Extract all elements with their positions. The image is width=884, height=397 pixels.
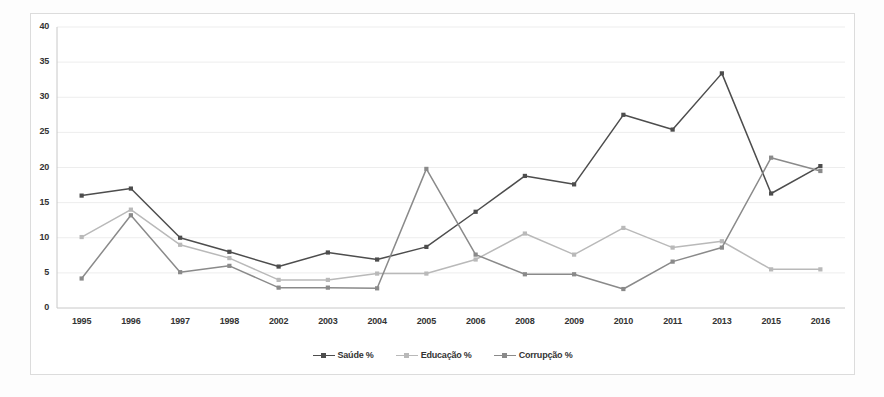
y-tick-label: 15 (27, 197, 49, 207)
y-tick-label: 40 (27, 21, 49, 31)
x-tick-label: 2011 (653, 316, 693, 326)
data-point-marker (129, 213, 133, 217)
x-tick-label: 2004 (357, 316, 397, 326)
x-tick-label: 1998 (209, 316, 249, 326)
y-tick-label: 10 (27, 232, 49, 242)
data-point-marker (474, 210, 478, 214)
line-chart-plot (0, 0, 884, 397)
data-point-marker (129, 186, 133, 190)
data-point-marker (277, 286, 281, 290)
x-tick-label: 1996 (111, 316, 151, 326)
data-point-marker (671, 127, 675, 131)
data-point-marker (523, 174, 527, 178)
data-point-marker (572, 272, 576, 276)
legend-label: Saúde % (338, 350, 374, 360)
legend-item-1[interactable]: Saúde % (313, 350, 374, 360)
data-point-marker (227, 264, 231, 268)
data-point-marker (80, 235, 84, 239)
gridlines (57, 27, 845, 273)
series-line (82, 158, 821, 289)
x-tick-label: 2006 (456, 316, 496, 326)
data-point-marker (474, 253, 478, 257)
y-tick-label: 20 (27, 162, 49, 172)
data-point-marker (178, 243, 182, 247)
legend-item-3[interactable]: Corrupção % (494, 350, 573, 360)
data-point-marker (424, 245, 428, 249)
data-point-marker (621, 287, 625, 291)
x-tick-label: 2015 (751, 316, 791, 326)
y-tick-label: 0 (27, 302, 49, 312)
x-tick-label: 2008 (505, 316, 545, 326)
data-point-marker (769, 156, 773, 160)
x-tick-label: 2013 (702, 316, 742, 326)
data-point-marker (720, 71, 724, 75)
legend-line-marker-icon (313, 351, 335, 360)
series-1 (80, 71, 823, 268)
data-point-marker (474, 257, 478, 261)
data-point-marker (326, 250, 330, 254)
data-point-marker (769, 267, 773, 271)
data-point-marker (818, 169, 822, 173)
data-point-marker (572, 182, 576, 186)
y-tick-label: 5 (27, 267, 49, 277)
x-tick-label: 2002 (259, 316, 299, 326)
data-point-marker (572, 253, 576, 257)
legend-label: Educação % (421, 350, 472, 360)
data-point-marker (818, 164, 822, 168)
x-tick-label: 2010 (603, 316, 643, 326)
legend-label: Corrupção % (519, 350, 573, 360)
x-tick-label: 2003 (308, 316, 348, 326)
series-3 (80, 156, 823, 292)
data-point-marker (375, 257, 379, 261)
chart-legend: Saúde %Educação %Corrupção % (30, 350, 855, 360)
x-tick-label: 1995 (62, 316, 102, 326)
data-point-marker (720, 239, 724, 243)
data-point-marker (277, 278, 281, 282)
data-point-marker (671, 260, 675, 264)
legend-line-marker-icon (396, 351, 418, 360)
data-point-marker (326, 286, 330, 290)
y-tick-label: 25 (27, 126, 49, 136)
legend-line-marker-icon (494, 351, 516, 360)
data-point-marker (326, 278, 330, 282)
data-point-marker (424, 167, 428, 171)
data-point-marker (129, 208, 133, 212)
data-point-marker (720, 245, 724, 249)
data-point-marker (375, 271, 379, 275)
data-point-marker (80, 194, 84, 198)
data-point-marker (227, 256, 231, 260)
series-layer (80, 71, 823, 291)
data-point-marker (523, 231, 527, 235)
y-tick-label: 30 (27, 91, 49, 101)
data-point-marker (277, 264, 281, 268)
x-tick-label: 2005 (406, 316, 446, 326)
x-tick-label: 1997 (160, 316, 200, 326)
data-point-marker (671, 245, 675, 249)
data-point-marker (621, 226, 625, 230)
data-point-marker (769, 191, 773, 195)
data-point-marker (818, 267, 822, 271)
x-tick-label: 2009 (554, 316, 594, 326)
chart-figure: 0510152025303540 19951996199719982002200… (0, 0, 884, 397)
data-point-marker (178, 270, 182, 274)
data-point-marker (424, 271, 428, 275)
series-line (82, 210, 821, 280)
x-tick-label: 2016 (800, 316, 840, 326)
data-point-marker (178, 236, 182, 240)
data-point-marker (523, 272, 527, 276)
legend-item-2[interactable]: Educação % (396, 350, 472, 360)
data-point-marker (621, 113, 625, 117)
y-tick-label: 35 (27, 56, 49, 66)
data-point-marker (375, 286, 379, 290)
data-point-marker (227, 250, 231, 254)
data-point-marker (80, 276, 84, 280)
